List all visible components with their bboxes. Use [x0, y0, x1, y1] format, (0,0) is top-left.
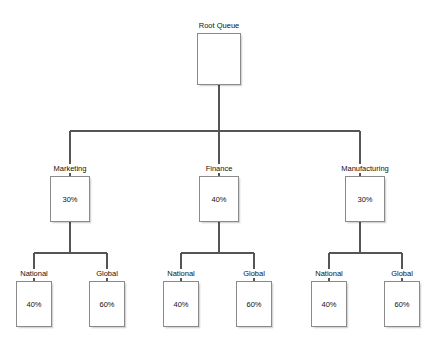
queue-hierarchy-diagram: Root Queue Marketing 30% Finance 40% Man…: [0, 0, 438, 347]
node-finance-box: 40%: [199, 176, 239, 222]
node-manufacturing-global-value: 60%: [394, 300, 409, 309]
node-manufacturing[interactable]: Manufacturing 30%: [345, 176, 385, 222]
node-marketing-global-box: 60%: [89, 281, 125, 327]
node-finance-value: 40%: [211, 195, 226, 204]
node-marketing-value: 30%: [62, 195, 77, 204]
node-finance-national-label: National: [165, 269, 197, 278]
node-manufacturing-global-box: 60%: [384, 281, 420, 327]
node-manufacturing-national-box: 40%: [311, 281, 347, 327]
node-manufacturing-national-label: National: [313, 269, 345, 278]
node-manufacturing-global[interactable]: Global 60%: [384, 281, 420, 327]
node-marketing-global[interactable]: Global 60%: [89, 281, 125, 327]
node-marketing-global-value: 60%: [99, 300, 114, 309]
node-marketing-global-label: Global: [94, 269, 120, 278]
node-marketing-box: 30%: [50, 176, 90, 222]
node-manufacturing-label: Manufacturing: [339, 164, 391, 173]
node-manufacturing-national-value: 40%: [321, 300, 336, 309]
node-finance-global[interactable]: Global 60%: [236, 281, 272, 327]
node-manufacturing-box: 30%: [345, 176, 385, 222]
node-marketing-national[interactable]: National 40%: [16, 281, 52, 327]
node-finance-national-box: 40%: [163, 281, 199, 327]
node-marketing-national-box: 40%: [16, 281, 52, 327]
node-marketing-national-label: National: [18, 269, 50, 278]
node-finance[interactable]: Finance 40%: [199, 176, 239, 222]
node-marketing-label: Marketing: [52, 164, 89, 173]
node-manufacturing-global-label: Global: [389, 269, 415, 278]
node-marketing[interactable]: Marketing 30%: [50, 176, 90, 222]
node-root[interactable]: Root Queue: [197, 33, 241, 85]
node-root-label: Root Queue: [197, 21, 241, 30]
node-finance-national[interactable]: National 40%: [163, 281, 199, 327]
node-marketing-national-value: 40%: [26, 300, 41, 309]
node-finance-national-value: 40%: [173, 300, 188, 309]
node-finance-global-value: 60%: [246, 300, 261, 309]
node-manufacturing-national[interactable]: National 40%: [311, 281, 347, 327]
node-root-box: [197, 33, 241, 85]
node-finance-global-box: 60%: [236, 281, 272, 327]
node-finance-global-label: Global: [241, 269, 267, 278]
node-manufacturing-value: 30%: [357, 195, 372, 204]
node-finance-label: Finance: [204, 164, 235, 173]
